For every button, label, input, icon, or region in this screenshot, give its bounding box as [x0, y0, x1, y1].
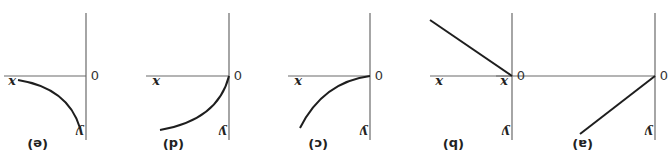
plot-curve: [300, 76, 370, 128]
panel-caption: (a): [572, 137, 593, 152]
origin-label: 0: [91, 68, 99, 83]
y-axis-label: y: [359, 125, 369, 140]
plot-curve: [18, 80, 80, 128]
x-axis-label: x: [152, 75, 161, 90]
x-axis-label: x: [435, 75, 444, 90]
origin-label: 0: [234, 68, 242, 83]
y-axis-label: y: [644, 125, 654, 140]
x-axis-label: x: [500, 75, 509, 90]
origin-label: 0: [517, 68, 525, 83]
plot-line: [580, 76, 655, 134]
y-axis-label: y: [75, 125, 85, 140]
panel-d: y x 0 (d): [146, 13, 242, 152]
panel-caption: (c): [308, 137, 328, 152]
origin-label: 0: [375, 68, 383, 83]
x-axis-label: x: [8, 75, 17, 90]
panel-b: y x 0 (b): [430, 13, 525, 152]
plot-curve: [160, 76, 229, 130]
plot-line: [430, 20, 512, 76]
panel-e: y x 0 (e): [4, 13, 99, 152]
y-axis-label: y: [218, 125, 228, 140]
x-axis-label: x: [294, 75, 303, 90]
panel-c: y x 0 (c): [288, 13, 383, 152]
diagram-canvas: y x 0 (a) y x 0 (b) y x 0 (c): [0, 0, 668, 168]
y-axis-label: y: [501, 125, 511, 140]
panel-caption: (e): [27, 137, 48, 152]
origin-label: 0: [660, 68, 668, 83]
panel-caption: (d): [163, 137, 184, 152]
panel-caption: (b): [443, 137, 464, 152]
